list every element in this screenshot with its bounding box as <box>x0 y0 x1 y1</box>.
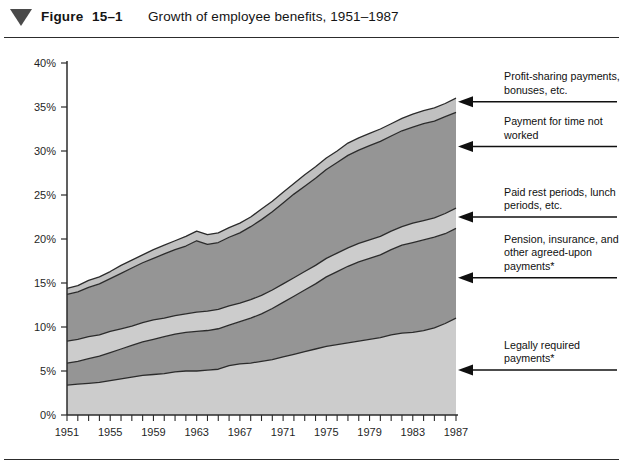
annotation-arrow-icon <box>458 272 473 283</box>
annotation-label: Payment for time not <box>504 115 603 127</box>
y-axis-tick-label: 35% <box>34 101 56 113</box>
annotation-label: payments* <box>504 352 555 364</box>
x-axis-tick-label: 1955 <box>98 426 122 438</box>
annotation-arrow-icon <box>458 365 473 376</box>
y-axis-tick-label: 25% <box>34 189 56 201</box>
x-axis-tick-label: 1983 <box>401 426 425 438</box>
x-axis-tick-label: 1971 <box>271 426 295 438</box>
annotation-label: periods, etc. <box>504 199 562 211</box>
y-axis-tick-label: 40% <box>34 57 56 69</box>
footer-divider <box>4 459 619 460</box>
figure-title: Growth of employee benefits, 1951–1987 <box>148 9 399 24</box>
triangle-down-icon <box>10 9 32 26</box>
x-axis-tick-label: 1975 <box>314 426 338 438</box>
x-axis-tick-label: 1951 <box>55 426 79 438</box>
x-axis-tick-label: 1963 <box>184 426 208 438</box>
x-axis-tick-labels: 1951195519591963196719711975197919831987 <box>55 426 468 438</box>
y-axis-tick-label: 20% <box>34 233 56 245</box>
annotation-label: Profit-sharing payments, <box>504 70 620 82</box>
y-axis-tick-label: 10% <box>34 321 56 333</box>
annotation-arrow-icon <box>458 212 473 223</box>
annotation-label: bonuses, etc. <box>504 84 568 96</box>
area-chart: 0%5%10%15%20%25%30%35%40% 19511955195919… <box>0 38 623 459</box>
annotation-label: worked <box>503 129 539 141</box>
y-axis-tick-label: 15% <box>34 277 56 289</box>
x-axis-tick-label: 1959 <box>141 426 165 438</box>
annotation-label: other agreed-upon <box>504 246 592 258</box>
annotation-arrow-icon <box>458 96 473 107</box>
annotation-label: Paid rest periods, lunch <box>504 186 616 198</box>
figure-number: 15–1 <box>92 9 123 24</box>
annotation-label: Pension, insurance, and <box>504 233 619 245</box>
annotation-arrow-icon <box>458 141 473 152</box>
chart-areas <box>67 63 456 415</box>
chart-container: 0%5%10%15%20%25%30%35%40% 19511955195919… <box>0 38 623 459</box>
y-axis-tick-label: 30% <box>34 145 56 157</box>
y-axis-tick-label: 5% <box>40 365 56 377</box>
x-axis-tick-label: 1987 <box>444 426 468 438</box>
figure-label: Figure <box>41 9 83 24</box>
x-axis-tick-label: 1979 <box>357 426 381 438</box>
y-axis-tick-label: 0% <box>40 409 56 421</box>
y-axis-tick-labels: 0%5%10%15%20%25%30%35%40% <box>34 57 56 421</box>
x-axis-tick-label: 1967 <box>228 426 252 438</box>
figure-header: Figure 15–1 Growth of employee benefits,… <box>0 0 623 38</box>
annotation-label: payments* <box>504 260 555 272</box>
annotation-label: Legally required <box>504 339 580 351</box>
chart-annotations: Profit-sharing payments,bonuses, etc.Pay… <box>458 70 620 375</box>
